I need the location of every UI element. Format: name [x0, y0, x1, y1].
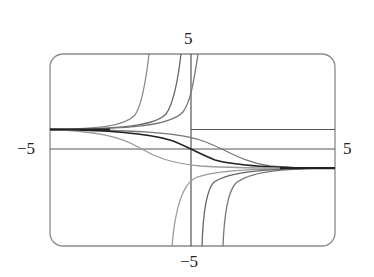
x-min-tick-label: −5	[17, 140, 35, 157]
y-min-tick-label: −5	[180, 253, 198, 270]
x-max-tick-label: 5	[343, 140, 352, 157]
y-max-tick-label: 5	[184, 30, 193, 47]
